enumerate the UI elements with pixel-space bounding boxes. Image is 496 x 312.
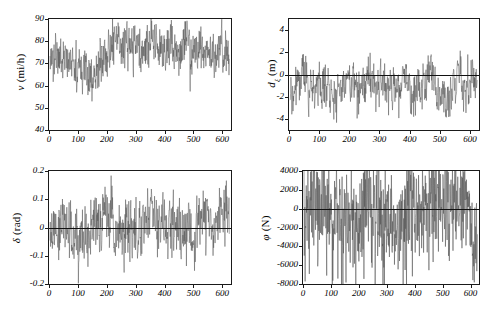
xtick-label-velocity-1: 100 — [62, 135, 94, 144]
ytick-label-tire-force-1: -6000 — [266, 260, 298, 269]
ytick-mark-velocity-5 — [45, 19, 48, 20]
xtick-mark-velocity-0 — [49, 131, 50, 134]
axis-label-steering-angle-symbol: δ — [10, 238, 22, 243]
plot-frame-tire-force — [302, 170, 480, 285]
ytick-label-steering-angle-1: -0.1 — [12, 251, 44, 260]
xtick-mark-velocity-4 — [165, 131, 166, 134]
xtick-mark-tire-force-4 — [415, 285, 416, 288]
xtick-label-lateral-displacement-5: 500 — [424, 135, 456, 144]
subplot-lateral-displacement: dξ (m) -4-20240100200300400500600 — [248, 0, 496, 156]
xtick-mark-tire-force-3 — [387, 285, 388, 288]
plot-frame-steering-angle — [48, 170, 232, 285]
ytick-label-velocity-3: 70 — [12, 58, 44, 67]
xtick-label-velocity-4: 400 — [149, 135, 181, 144]
xtick-label-steering-angle-5: 500 — [177, 289, 209, 298]
xtick-mark-tire-force-1 — [331, 285, 332, 288]
xtick-label-velocity-0: 0 — [33, 135, 65, 144]
ytick-label-velocity-1: 50 — [12, 103, 44, 112]
axis-label-lateral-displacement-symbol: d — [265, 82, 277, 88]
ytick-label-velocity-4: 80 — [12, 36, 44, 45]
axis-label-lateral-displacement-subscript: ξ — [273, 79, 281, 82]
ytick-mark-lateral-displacement-2 — [285, 75, 288, 76]
ytick-mark-velocity-2 — [45, 86, 48, 87]
ytick-label-steering-angle-2: 0 — [12, 223, 44, 232]
ytick-label-lateral-displacement-3: 2 — [252, 47, 284, 56]
ytick-label-lateral-displacement-4: 4 — [252, 25, 284, 34]
xtick-label-steering-angle-4: 400 — [149, 289, 181, 298]
plot-frame-lateral-displacement — [288, 18, 480, 131]
xtick-label-steering-angle-6: 600 — [206, 289, 238, 298]
xtick-mark-steering-angle-5 — [193, 285, 194, 288]
xtick-label-lateral-displacement-2: 200 — [333, 135, 365, 144]
ytick-mark-velocity-3 — [45, 63, 48, 64]
xtick-label-tire-force-6: 600 — [455, 289, 487, 298]
ytick-mark-tire-force-3 — [299, 228, 302, 229]
xtick-label-lateral-displacement-4: 400 — [394, 135, 426, 144]
xtick-mark-velocity-6 — [222, 131, 223, 134]
ytick-mark-velocity-1 — [45, 108, 48, 109]
xtick-label-steering-angle-3: 300 — [120, 289, 152, 298]
ytick-label-lateral-displacement-0: -4 — [252, 114, 284, 123]
xtick-mark-tire-force-5 — [443, 285, 444, 288]
ytick-mark-velocity-0 — [45, 130, 48, 131]
ytick-label-tire-force-5: 2000 — [266, 185, 298, 194]
ytick-label-tire-force-4: 0 — [266, 204, 298, 213]
xtick-label-lateral-displacement-0: 0 — [273, 135, 305, 144]
xtick-label-velocity-2: 200 — [91, 135, 123, 144]
axis-label-tire-force-symbol: φ — [259, 234, 271, 240]
ytick-mark-tire-force-1 — [299, 265, 302, 266]
ytick-mark-steering-angle-2 — [45, 228, 48, 229]
ytick-mark-steering-angle-4 — [45, 171, 48, 172]
xtick-mark-tire-force-0 — [303, 285, 304, 288]
xtick-label-lateral-displacement-6: 600 — [454, 135, 486, 144]
ytick-label-velocity-2: 60 — [12, 81, 44, 90]
xtick-mark-lateral-displacement-2 — [349, 131, 350, 134]
ytick-mark-lateral-displacement-1 — [285, 97, 288, 98]
ytick-mark-tire-force-0 — [299, 284, 302, 285]
ytick-mark-steering-angle-0 — [45, 284, 48, 285]
ytick-label-tire-force-3: -2000 — [266, 223, 298, 232]
ytick-label-steering-angle-0: -0.2 — [12, 279, 44, 288]
xtick-mark-steering-angle-3 — [136, 285, 137, 288]
xtick-mark-tire-force-2 — [359, 285, 360, 288]
xtick-label-velocity-3: 300 — [120, 135, 152, 144]
xtick-mark-velocity-2 — [107, 131, 108, 134]
figure-canvas: v (mi/h) 4050607080900100200300400500600… — [0, 0, 496, 312]
plot-frame-velocity — [48, 18, 232, 131]
ytick-label-tire-force-6: 4000 — [266, 166, 298, 175]
xtick-label-lateral-displacement-1: 100 — [303, 135, 335, 144]
xtick-mark-steering-angle-6 — [222, 285, 223, 288]
ytick-mark-steering-angle-1 — [45, 256, 48, 257]
subplot-tire-force: φ (N) -8000-6000-4000-200002000400001002… — [248, 156, 496, 312]
xtick-mark-lateral-displacement-6 — [470, 131, 471, 134]
ytick-label-steering-angle-3: 0.1 — [12, 194, 44, 203]
trace-tire-force — [303, 171, 479, 284]
xtick-label-steering-angle-2: 200 — [91, 289, 123, 298]
xtick-mark-steering-angle-0 — [49, 285, 50, 288]
ytick-mark-tire-force-6 — [299, 171, 302, 172]
xtick-mark-steering-angle-2 — [107, 285, 108, 288]
subplot-velocity: v (mi/h) 4050607080900100200300400500600 — [0, 0, 248, 156]
ytick-label-steering-angle-4: 0.2 — [12, 166, 44, 175]
xtick-mark-lateral-displacement-1 — [319, 131, 320, 134]
ytick-label-tire-force-2: -4000 — [266, 241, 298, 250]
ytick-mark-lateral-displacement-4 — [285, 30, 288, 31]
xtick-mark-steering-angle-1 — [78, 285, 79, 288]
xtick-label-velocity-6: 600 — [206, 135, 238, 144]
ytick-mark-tire-force-5 — [299, 190, 302, 191]
xtick-mark-steering-angle-4 — [165, 285, 166, 288]
ytick-label-lateral-displacement-1: -2 — [252, 92, 284, 101]
xtick-mark-velocity-3 — [136, 131, 137, 134]
xtick-mark-tire-force-6 — [471, 285, 472, 288]
zero-line-lateral-displacement — [289, 75, 479, 76]
xtick-label-lateral-displacement-3: 300 — [363, 135, 395, 144]
xtick-mark-lateral-displacement-5 — [440, 131, 441, 134]
ytick-label-lateral-displacement-2: 0 — [252, 70, 284, 79]
ytick-mark-tire-force-2 — [299, 246, 302, 247]
ytick-label-velocity-5: 90 — [12, 14, 44, 23]
xtick-mark-lateral-displacement-3 — [379, 131, 380, 134]
zero-line-tire-force — [303, 209, 479, 210]
ytick-mark-lateral-displacement-3 — [285, 52, 288, 53]
axis-label-velocity: v (mi/h) — [14, 36, 26, 108]
ytick-label-tire-force-0: -8000 — [266, 279, 298, 288]
